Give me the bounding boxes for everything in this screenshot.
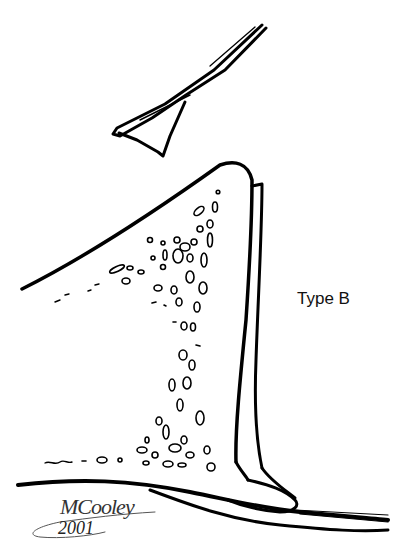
instrument [113, 25, 266, 156]
signature-year: 2001 [58, 518, 94, 539]
anatomical-illustration [0, 0, 410, 559]
figure-label: Type B [297, 289, 350, 309]
trabecular-pattern [45, 190, 220, 471]
signature-name: MCooley [60, 494, 134, 520]
bone-outline [22, 163, 295, 498]
